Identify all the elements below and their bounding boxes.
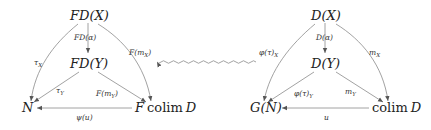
node-g-n: G(N) [250, 100, 282, 115]
node-n: N [21, 100, 34, 115]
left-diagram: FD(X) FD(Y) N FcolimD FD(α) τX F(mX) τY … [21, 8, 197, 122]
label-m-x: mX [369, 48, 381, 58]
label-tau-x: τX [34, 58, 43, 68]
diagram-canvas: FD(X) FD(Y) N FcolimD FD(α) τX F(mX) τY … [0, 0, 431, 130]
label-fd-alpha: FD(α) [73, 33, 96, 42]
label-d-alpha: D(α) [315, 33, 333, 42]
edge-m-x [336, 24, 388, 101]
label-f-m-y: F(mY) [95, 89, 118, 99]
label-f-m-x: F(mX) [128, 48, 151, 58]
node-f-colim-d: FcolimD [134, 100, 197, 115]
node-dx: D(X) [310, 8, 341, 23]
label-tau-y: τY [56, 86, 65, 96]
node-fdy: FD(Y) [69, 56, 108, 71]
edge-m-y [336, 72, 383, 102]
correspondence-wavy-arrow [157, 61, 256, 64]
label-phi-tau-y: φ(τ)Y [294, 89, 314, 99]
label-m-y: mY [345, 87, 357, 97]
right-diagram: D(X) D(Y) G(N) colimD D(α) φ(τ)X mX φ(τ)… [250, 8, 422, 122]
label-phi-tau-x: φ(τ)X [259, 48, 279, 58]
node-colim-d: colimD [372, 100, 422, 115]
node-dy: D(Y) [310, 56, 340, 71]
label-u: u [324, 113, 329, 122]
node-fdx: FD(X) [69, 8, 109, 23]
label-psi-u: ψ(u) [76, 113, 93, 122]
